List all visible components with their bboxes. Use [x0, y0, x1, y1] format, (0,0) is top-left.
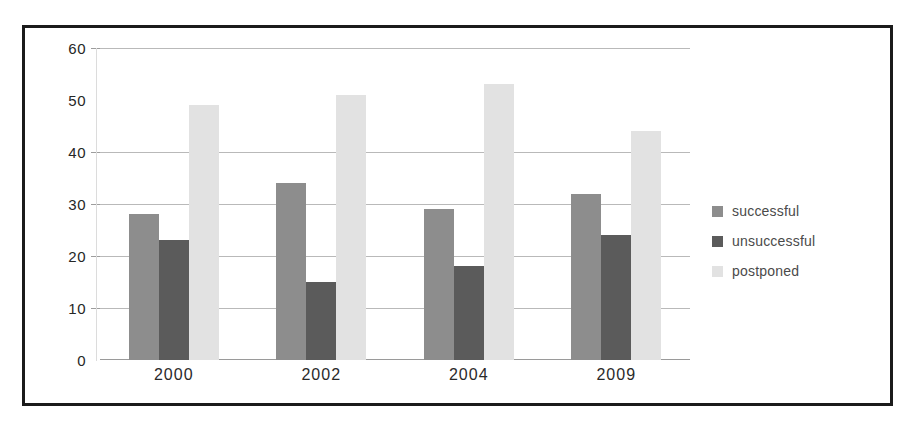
y-tick-label-30: 30: [26, 196, 86, 213]
legend-item-unsuccessful[interactable]: unsuccessful: [712, 226, 815, 256]
bar-groups: [100, 48, 690, 360]
bar-successful-2000[interactable]: [129, 214, 159, 360]
bar-group-2002: [248, 48, 396, 360]
y-axis: 60 50 40 30 20 10 0: [22, 0, 86, 429]
legend-label-unsuccessful: unsuccessful: [732, 233, 815, 249]
bar-postponed-2004[interactable]: [484, 84, 514, 360]
bar-postponed-2009[interactable]: [631, 131, 661, 360]
bar-unsuccessful-2004[interactable]: [454, 266, 484, 360]
x-axis-labels: 2000 2002 2004 2009: [100, 366, 690, 396]
x-tick-label-2000: 2000: [100, 366, 248, 396]
bar-successful-2004[interactable]: [424, 209, 454, 360]
bar-chart-figure: 60 50 40 30 20 10 0: [0, 0, 913, 429]
x-tick-label-2004: 2004: [395, 366, 543, 396]
legend-swatch-icon-successful: [712, 206, 723, 217]
bar-group-2009: [543, 48, 691, 360]
y-tick-label-50: 50: [26, 92, 86, 109]
bar-group-2000: [100, 48, 248, 360]
legend-label-postponed: postponed: [732, 263, 799, 279]
x-tick-label-2009: 2009: [543, 366, 691, 396]
legend-label-successful: successful: [732, 203, 799, 219]
bar-group-2004: [395, 48, 543, 360]
y-tick-label-10: 10: [26, 300, 86, 317]
bar-successful-2009[interactable]: [571, 194, 601, 360]
y-tick-label-20: 20: [26, 248, 86, 265]
y-tick-label-40: 40: [26, 144, 86, 161]
bar-postponed-2000[interactable]: [189, 105, 219, 360]
legend-item-postponed[interactable]: postponed: [712, 256, 815, 286]
bar-unsuccessful-2002[interactable]: [306, 282, 336, 360]
legend-swatch-icon-unsuccessful: [712, 236, 723, 247]
legend-swatch-icon-postponed: [712, 266, 723, 277]
chart-legend: successful unsuccessful postponed: [712, 196, 815, 286]
bar-successful-2002[interactable]: [276, 183, 306, 360]
legend-item-successful[interactable]: successful: [712, 196, 815, 226]
y-tick-label-60: 60: [26, 40, 86, 57]
bar-unsuccessful-2009[interactable]: [601, 235, 631, 360]
screenshot-root: 60 50 40 30 20 10 0: [0, 0, 913, 429]
y-axis-spine: [96, 48, 97, 361]
x-tick-label-2002: 2002: [248, 366, 396, 396]
y-tick-label-0: 0: [26, 352, 86, 369]
bar-unsuccessful-2000[interactable]: [159, 240, 189, 360]
bar-postponed-2002[interactable]: [336, 95, 366, 360]
